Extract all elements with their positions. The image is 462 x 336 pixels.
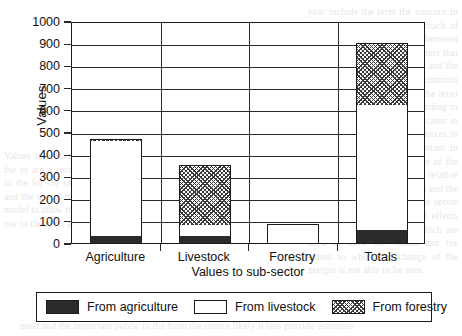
y-tick-mark	[64, 177, 71, 178]
bar-segment[interactable]	[356, 230, 408, 243]
legend-item[interactable]: From forestry	[332, 300, 447, 314]
y-tick-mark	[64, 221, 71, 222]
legend-swatch-icon	[332, 300, 365, 314]
x-tick-label-agriculture: Agriculture	[85, 250, 145, 264]
y-tick-label: 400	[39, 149, 60, 161]
plot-area	[71, 22, 425, 244]
y-tick-mark	[64, 21, 71, 22]
bar-segment[interactable]	[267, 224, 319, 243]
y-tick-label: 300	[39, 171, 60, 183]
bar-segment[interactable]	[90, 139, 142, 141]
category-separator	[161, 23, 162, 243]
bar-segment[interactable]	[90, 141, 142, 236]
y-tick-label: 700	[39, 83, 60, 95]
y-tick-label: 0	[53, 238, 60, 250]
y-tick-label: 600	[39, 105, 60, 117]
x-tick-label-forestry: Forestry	[269, 250, 315, 264]
bar-livestock[interactable]	[179, 165, 231, 243]
y-tick-mark	[64, 132, 71, 133]
legend-label: From livestock	[235, 300, 316, 314]
legend-label: From forestry	[373, 300, 447, 314]
stacked-bar-chart: Values 01002003004005006007008009001000 …	[0, 0, 462, 336]
legend-swatch-icon	[46, 300, 79, 314]
y-tick-label: 500	[39, 127, 60, 139]
bar-totals[interactable]	[356, 43, 408, 243]
bar-segment[interactable]	[179, 236, 231, 243]
y-tick-mark	[64, 243, 71, 244]
y-tick-mark	[64, 155, 71, 156]
legend-item[interactable]: From agriculture	[46, 300, 178, 314]
chart-legend: From agricultureFrom livestockFrom fores…	[36, 292, 432, 322]
x-tick-label-totals: Totals	[364, 250, 397, 264]
y-axis-tick-labels: 01002003004005006007008009001000	[0, 22, 68, 244]
y-tick-mark	[64, 44, 71, 45]
y-tick-mark	[64, 66, 71, 67]
legend-swatch-icon	[194, 300, 227, 314]
y-tick-label: 1000	[32, 16, 60, 28]
x-tick-label-livestock: Livestock	[178, 250, 230, 264]
bar-forestry[interactable]	[267, 224, 319, 243]
y-tick-label: 900	[39, 38, 60, 50]
y-tick-mark	[64, 199, 71, 200]
y-axis-ticks	[64, 22, 71, 244]
bar-segment[interactable]	[179, 165, 231, 225]
bar-segment[interactable]	[179, 225, 231, 236]
bar-segment[interactable]	[356, 43, 408, 105]
bar-segment[interactable]	[356, 105, 408, 229]
x-axis-title: Values to sub-sector	[71, 265, 425, 279]
bar-agriculture[interactable]	[90, 139, 142, 243]
bar-segment[interactable]	[90, 236, 142, 243]
y-tick-label: 100	[39, 216, 60, 228]
category-separator	[338, 23, 339, 243]
y-tick-mark	[64, 88, 71, 89]
legend-label: From agriculture	[87, 300, 178, 314]
category-separator	[249, 23, 250, 243]
legend-item[interactable]: From livestock	[194, 300, 316, 314]
y-tick-label: 800	[39, 60, 60, 72]
y-tick-label: 200	[39, 194, 60, 206]
y-tick-mark	[64, 110, 71, 111]
